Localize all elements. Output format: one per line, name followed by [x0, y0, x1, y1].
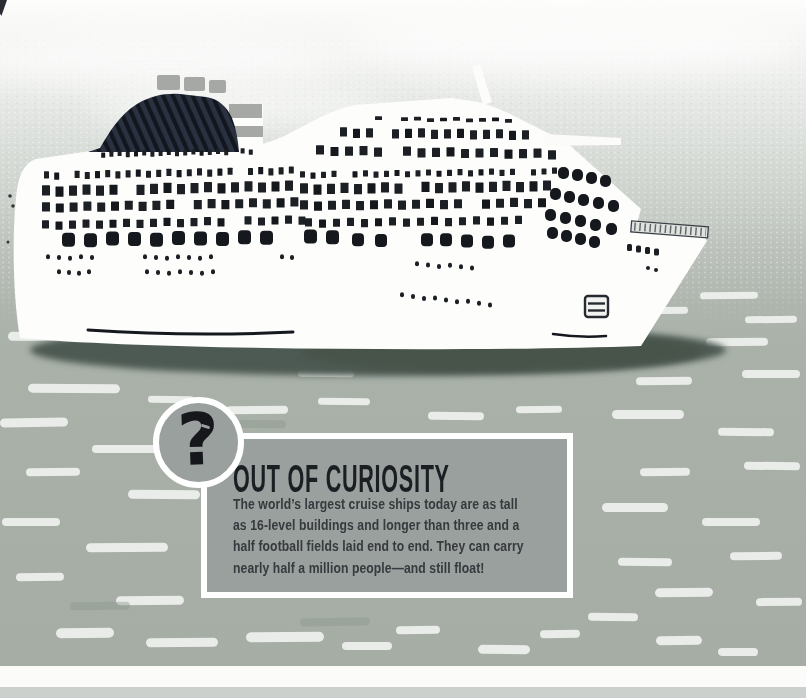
page-bottom-white-band — [0, 666, 806, 687]
book-page: OUT OF CURIOSITY The world’s largest cru… — [0, 0, 806, 698]
callout-body: The world’s largest cruise ships today a… — [233, 494, 569, 579]
bow-mast — [472, 64, 492, 105]
curiosity-callout-box: OUT OF CURIOSITY The world’s largest cru… — [201, 433, 573, 598]
page-bottom-gray-band — [0, 687, 806, 698]
question-mark-icon: ? — [175, 396, 220, 481]
callout-body-line: half football fields laid end to end. Th… — [233, 536, 569, 557]
callout-body-line: as 16-level buildings and longer than th… — [233, 515, 569, 536]
ship-dome — [88, 94, 239, 152]
question-mark-badge: ? — [153, 397, 244, 488]
anchor-hatch-icon — [585, 296, 608, 317]
callout-body-line: The world’s largest cruise ships today a… — [233, 494, 569, 515]
bow-spar — [543, 134, 621, 146]
callout-body-line: nearly half a million people—and still f… — [233, 558, 569, 579]
